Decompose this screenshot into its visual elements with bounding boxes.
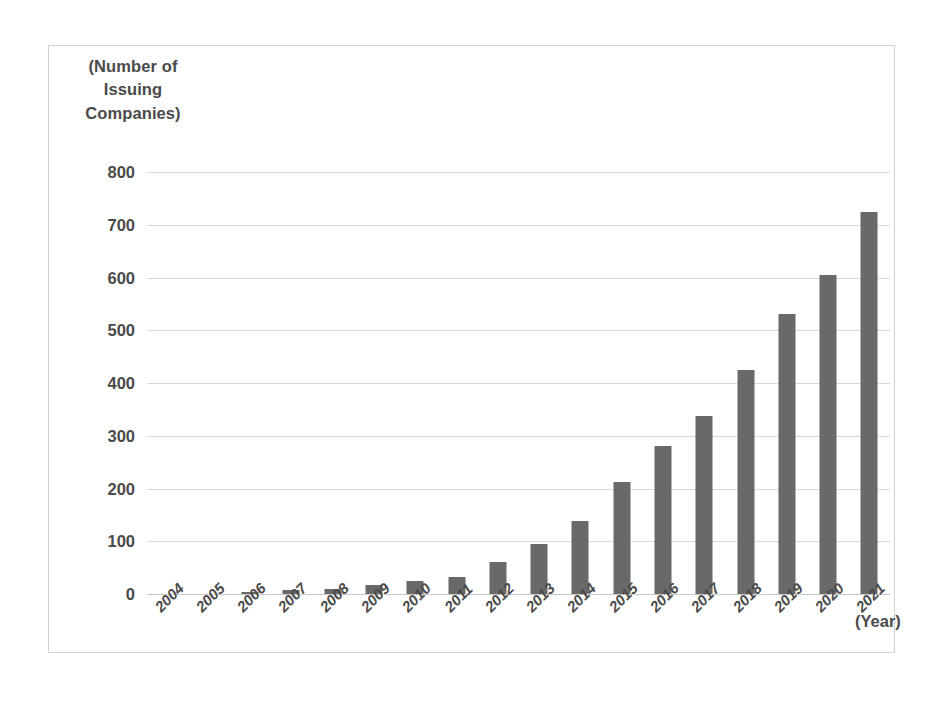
- y-axis-tick-label: 800: [65, 163, 135, 182]
- bar-slot: 2020: [807, 172, 848, 594]
- bar-slot: 2006: [230, 172, 271, 594]
- bar-slot: 2011: [436, 172, 477, 594]
- bar-slot: 2015: [601, 172, 642, 594]
- bar: [654, 446, 671, 594]
- y-axis-tick-label: 100: [65, 532, 135, 551]
- bar: [696, 416, 713, 594]
- bar-slot: 2007: [271, 172, 312, 594]
- y-axis-tick-label: 400: [65, 374, 135, 393]
- plot-area: 8007006005004003002001000 20042005200620…: [147, 172, 890, 594]
- y-axis-tick-label: 0: [65, 585, 135, 604]
- bar: [820, 275, 837, 594]
- bar: [778, 314, 795, 594]
- bar: [613, 482, 630, 594]
- bar-slot: 2016: [642, 172, 683, 594]
- bar-slot: 2017: [684, 172, 725, 594]
- bar-slot: 2004: [147, 172, 188, 594]
- bar-slot: 2008: [312, 172, 353, 594]
- bar-slot: 2013: [519, 172, 560, 594]
- bar-slot: 2005: [188, 172, 229, 594]
- y-axis-tick-label: 300: [65, 426, 135, 445]
- y-axis-title: (Number of Issuing Companies): [63, 55, 203, 125]
- bar: [737, 370, 754, 594]
- bar-series: 2004200520062007200820092010201120122013…: [147, 172, 890, 594]
- y-axis-tick-label: 700: [65, 215, 135, 234]
- y-axis-title-line-1: (Number of: [63, 55, 203, 78]
- bar-slot: 2014: [560, 172, 601, 594]
- y-axis-title-line-3: Companies): [63, 102, 203, 125]
- y-axis-tick-label: 200: [65, 479, 135, 498]
- y-axis-tick-label: 500: [65, 321, 135, 340]
- bar-slot: 2018: [725, 172, 766, 594]
- bar-slot: 2021: [849, 172, 890, 594]
- y-axis-title-line-2: Issuing: [63, 78, 203, 101]
- bar-slot: 2009: [353, 172, 394, 594]
- bar-slot: 2012: [477, 172, 518, 594]
- y-axis-tick-label: 600: [65, 268, 135, 287]
- x-axis-title: (Year): [855, 612, 901, 631]
- bar-slot: 2019: [766, 172, 807, 594]
- bar: [861, 212, 878, 594]
- bar-slot: 2010: [395, 172, 436, 594]
